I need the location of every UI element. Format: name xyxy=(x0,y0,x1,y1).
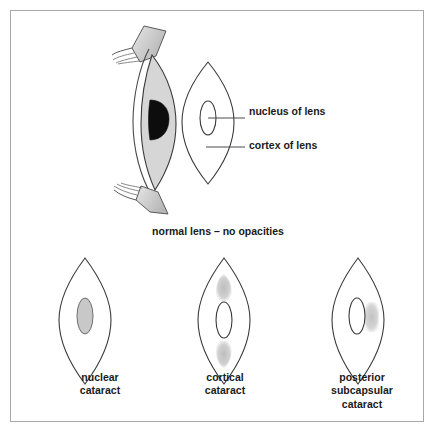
psc-lens-nucleus xyxy=(349,298,365,334)
posterior-subcapsular-plaque xyxy=(364,302,379,332)
caption-cortical-cataract: cortical cataract xyxy=(163,371,287,398)
figure-graphics xyxy=(0,0,436,434)
normal-lens-diagram xyxy=(182,62,245,184)
nuclear-cataract-diagram xyxy=(59,258,111,384)
label-nucleus-of-lens: nucleus of lens xyxy=(249,105,325,117)
cortical-lens-nucleus xyxy=(216,302,232,338)
cortical-cataract-diagram xyxy=(198,258,250,384)
slit-lamp-cross-section xyxy=(112,26,176,214)
cataract-types-figure: nucleus of lens cortex of lens normal le… xyxy=(0,0,436,434)
psc-cataract-diagram xyxy=(332,258,384,384)
lower-eyelid-icon xyxy=(114,183,168,214)
caption-normal-lens: normal lens – no opacities xyxy=(88,225,348,238)
caption-nuclear-cataract: nuclear cataract xyxy=(38,371,162,398)
label-cortex-of-lens: cortex of lens xyxy=(249,139,317,151)
central-nucleus-opacity xyxy=(77,298,93,334)
caption-posterior-subcapsular-cataract: posterior subcapsular cataract xyxy=(298,371,426,411)
upper-eyelid-icon xyxy=(112,26,166,64)
